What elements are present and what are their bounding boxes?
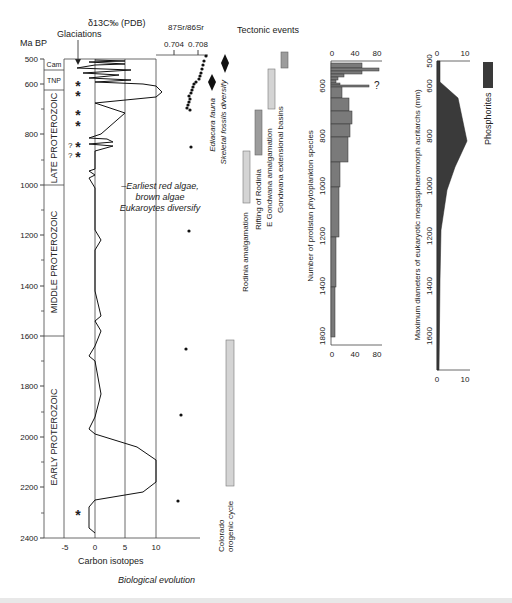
period-column: Cam TNP LATE PROTEROZOIC MIDDLE PROTEROZ… [44,59,64,538]
acri-age-tick: 1600 [425,327,434,345]
label-e-gondwana: E Gondwana amalgamation [265,128,274,227]
age-tick: 1400 [20,282,38,291]
bar-rodinia-amalgamation [243,151,250,203]
asterisk-icon: * [75,118,81,134]
asterisk-icon: * [75,507,81,523]
bar-rifting-rodinia [255,110,262,155]
acri-age-tick: 1400 [425,277,434,295]
phyto-tick: 40 [351,49,360,58]
acri-age-tick: 1200 [425,227,434,245]
age-tick: 2400 [20,534,38,543]
age-tick: 2200 [20,483,38,492]
phyto-tick: 40 [351,350,360,359]
acritarch-area [437,61,467,370]
acri-tick: 0 [435,375,440,384]
period-late-proterozoic: LATE PROTEROZOIC [49,92,59,183]
label-orogenic-cycle: orogenic cycle [226,500,235,552]
phyto-tick: 80 [373,350,382,359]
acritarch-axis-label: Maximum diameters of eukaryotic megaspha… [413,89,422,341]
svg-text:brown algae: brown algae [135,192,184,202]
carbon-tick: 0 [93,543,98,552]
acri-age-tick: 800 [425,129,434,143]
bar-gondwana-basins [281,52,288,68]
period-middle-proterozoic: MIDDLE PROTEROZOIC [49,210,59,313]
phyto-tick: 0 [330,350,335,359]
carbon-xlabel: Carbon isotopes [78,556,144,566]
bar-colorado-orogenic [226,340,234,486]
acri-tick: 10 [461,375,470,384]
biological-evolution-label: Biological evolution [118,575,195,585]
tectonic-title: Tectonic events [237,25,300,35]
glaciation-markers: * * * * * * * [75,78,81,523]
sr-tick: 0.704 [164,40,185,49]
age-tick: 1800 [20,382,38,391]
phyto-age-tick: 1800 [318,327,327,345]
acri-age-tick: 600 [425,79,434,93]
carbon-tick: -5 [61,543,69,552]
acri-age-tick: 1000 [425,177,434,195]
asterisk-icon: * [75,149,81,165]
age-tick: 1600 [20,332,38,341]
phyto-age-tick: 600 [318,79,327,93]
carbon-tick: 5 [123,543,128,552]
phyto-age-tick: 800 [318,129,327,143]
age-axis-title: Ma BP [20,38,47,48]
question-mark: ? [68,151,73,160]
age-tick: 1200 [20,231,38,240]
age-tick: 2000 [20,433,38,442]
sr-title: 87Sr/86Sr [168,23,204,32]
svg-text:–Earliest red algae,: –Earliest red algae, [120,181,199,191]
svg-text:Eukaroytes diversify: Eukaroytes diversify [120,203,201,213]
diamond-marker-icon [208,74,216,91]
period-early-proterozoic: EARLY PROTEROZOIC [49,388,59,486]
age-tick: 500 [25,55,39,64]
strontium-plot: 87Sr/86Sr 0.704 0.708 Ediacara fauna Ske… [156,23,229,503]
arrow-down-icon [75,59,81,65]
geologic-chart: Ma BP 500 600 800 1000 1200 1400 1600 18… [0,0,512,603]
phytoplankton-chart: 0 40 80 0 40 80 600 800 1000 1200 1400 1… [306,49,382,359]
acri-tick: 0 [435,49,440,58]
phyto-bars [331,63,379,337]
bar-e-gondwana [268,69,275,109]
algae-annotation: –Earliest red algae, brown algae Eukaroy… [120,181,201,213]
phyto-age-tick: 1400 [318,277,327,295]
period-cam: Cam [47,61,62,68]
carbon-isotope-plot: δ13C‰ (PDB) -5 0 5 10 Carbon isotopes –E… [61,18,200,566]
cutoff-caption-strip [0,598,512,603]
phosphorites-legend-swatch [483,62,493,88]
ediacara-label: Ediacara fauna [208,97,217,151]
label-colorado: Colorado [217,519,226,552]
label-gondwana-basins: Gondwana extensional basins [276,106,285,213]
tectonic-events: Tectonic events Rodinia amalgamation Rif… [217,25,300,552]
asterisk-icon: * [75,88,81,104]
carbon-isotope-curve [77,60,162,533]
age-tick: 800 [25,130,39,139]
question-mark: ? [68,141,73,150]
period-tnp: TNP [47,77,61,84]
phosphorites-legend-label: Phosphorites [483,92,493,145]
phyto-age-tick: 1000 [318,177,327,195]
phyto-tick: 0 [330,49,335,58]
carbon-tick: 10 [152,543,161,552]
sr-data-points [176,54,207,502]
label-rifting-rodinia: Rifting of Rodinia [254,169,263,230]
age-axis: Ma BP 500 600 800 1000 1200 1400 1600 18… [20,38,200,543]
skeletal-fossils-label: Skeletal fossils diversify [219,79,228,164]
acri-tick: 10 [461,49,470,58]
acritarch-chart: 0 10 0 10 500 600 800 1000 1200 1400 160… [413,49,493,384]
age-tick: 600 [25,80,39,89]
phyto-tick: 80 [373,49,382,58]
age-tick: 1000 [20,181,38,190]
label-rodinia-amalgamation: Rodinia amalgamation [241,212,250,292]
sr-tick: 0.708 [188,40,209,49]
phyto-age-tick: 1200 [318,227,327,245]
diamond-marker-icon [221,54,229,73]
carbon-title: δ13C‰ (PDB) [88,18,146,28]
acri-age-tick: 500 [425,54,434,68]
phyto-axis-label: Number of protistan phytoplankton specie… [306,130,315,282]
question-mark: ? [374,80,380,91]
glaciations-label: Glaciations [57,29,102,39]
